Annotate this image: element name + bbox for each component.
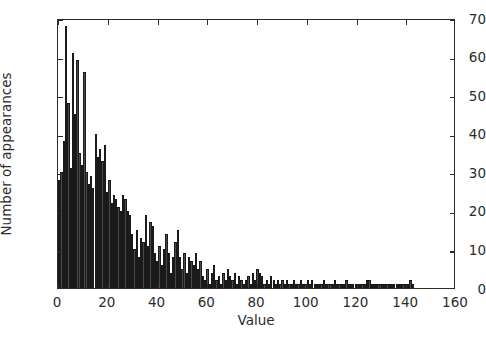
histogram-bars xyxy=(58,20,454,288)
x-tick-label: 120 xyxy=(331,296,381,310)
y-tick-label: 50 xyxy=(437,90,486,104)
x-tick-label: 80 xyxy=(231,296,281,310)
plot-area xyxy=(57,19,455,289)
histogram-bar xyxy=(412,284,414,288)
y-tick-label: 20 xyxy=(437,205,486,219)
y-tick-label: 70 xyxy=(437,13,486,27)
y-axis-label: Number of appearances xyxy=(0,73,14,236)
y-tick-label: 10 xyxy=(437,244,486,258)
x-tick-label: 0 xyxy=(32,296,82,310)
y-tick-label: 40 xyxy=(437,128,486,142)
x-tick-label: 60 xyxy=(181,296,231,310)
x-axis-label: Value xyxy=(237,312,274,328)
x-tick-label: 20 xyxy=(82,296,132,310)
x-tick-label: 40 xyxy=(132,296,182,310)
x-tick-label: 160 xyxy=(430,296,480,310)
y-tick-label: 30 xyxy=(437,167,486,181)
x-tick-label: 140 xyxy=(380,296,430,310)
y-tick-label: 60 xyxy=(437,51,486,65)
histogram-figure: 010203040506070 020406080100120140160 Nu… xyxy=(0,0,486,338)
x-tick-label: 100 xyxy=(281,296,331,310)
